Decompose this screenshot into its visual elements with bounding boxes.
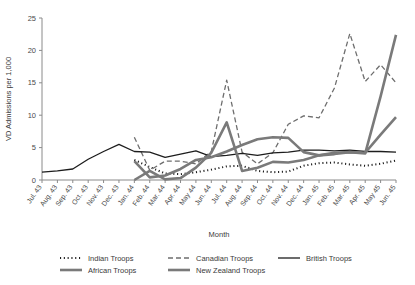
y-axis-tick-label: 0 <box>32 176 36 185</box>
y-axis-tick-label: 5 <box>32 143 36 152</box>
y-axis-title: VD Admissions per 1,000 <box>4 57 13 141</box>
x-axis-tick-label: Jun. 44 <box>193 183 212 206</box>
legend-label-canadian-troops: Canadian Troops <box>196 254 253 263</box>
y-axis-tick-label: 10 <box>28 111 36 120</box>
chart-container: 0510152025Jul. 43Aug. 43Sep. 43Oct. 43No… <box>0 0 415 285</box>
vd-admissions-line-chart: 0510152025Jul. 43Aug. 43Sep. 43Oct. 43No… <box>0 0 415 285</box>
x-axis-tick-label: Jun. 45 <box>378 183 397 206</box>
legend-label-african-troops: African Troops <box>88 266 137 275</box>
y-axis-tick-label: 25 <box>28 14 36 23</box>
legend-label-new-zealand-troops: New Zealand Troops <box>196 266 265 275</box>
x-axis-title: Month <box>209 230 230 239</box>
series-line-canadian-troops <box>134 34 396 171</box>
y-axis-tick-label: 20 <box>28 46 36 55</box>
legend-label-indian-troops: Indian Troops <box>88 254 134 263</box>
legend-label-british-troops: British Troops <box>306 254 352 263</box>
y-axis-tick-label: 15 <box>28 78 36 87</box>
